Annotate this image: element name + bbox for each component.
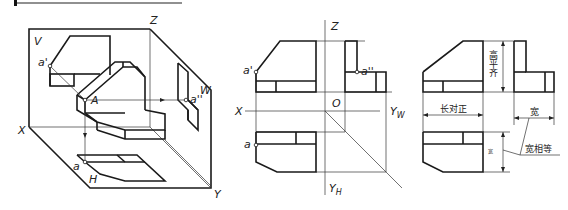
origin-label: O xyxy=(332,97,341,110)
point-A xyxy=(83,98,87,102)
axis-z-label: Z xyxy=(330,20,339,33)
axis-yh-label: YH xyxy=(329,182,342,197)
long-aligned-label: 长对正 xyxy=(440,103,467,114)
header-bar xyxy=(14,0,182,6)
high-level-label: 高平齐 xyxy=(488,49,498,78)
axis-y-label: Y xyxy=(214,188,222,201)
label-a-prime: a' xyxy=(243,64,253,77)
point-a xyxy=(83,160,87,164)
rules-view: 高平齐 长对正 宽 宽 宽相等 xyxy=(423,41,560,172)
axis-yw-label: YW xyxy=(390,105,406,120)
point-a-prime xyxy=(48,64,52,68)
projection-view: Z a' a'' O X YW a YH xyxy=(234,20,406,197)
axis-x-label: X xyxy=(17,124,26,137)
axis-x-label: X xyxy=(234,105,243,118)
label-A: A xyxy=(90,94,99,107)
label-a: a xyxy=(73,160,80,173)
width-small-label: 宽 xyxy=(488,148,493,155)
w-h-plane-edge xyxy=(29,29,211,188)
label-a-double-prime: a'' xyxy=(361,65,374,78)
three-view-diagram: Z V a' A a'' W X a H Y xyxy=(0,0,568,210)
width-label: 宽 xyxy=(530,106,539,117)
label-a: a xyxy=(244,138,251,151)
point-a-double-prime xyxy=(184,98,188,102)
plane-w-label: W xyxy=(200,84,212,97)
axis-z-label: Z xyxy=(149,14,158,27)
plane-h-label: H xyxy=(89,173,97,186)
pictorial-view: Z V a' A a'' W X a H Y xyxy=(17,14,222,201)
label-a-prime: a' xyxy=(38,56,48,69)
width-equal-label: 宽相等 xyxy=(525,143,552,154)
plane-v-label: V xyxy=(34,35,43,48)
